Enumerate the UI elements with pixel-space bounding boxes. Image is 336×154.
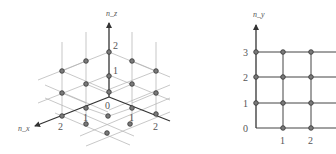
lattice-2d: n_y 3 2 1 0 1 2 <box>243 10 336 146</box>
nx-axis <box>35 97 109 126</box>
nz-axis-label: n_z <box>106 9 118 18</box>
y-tick-1: 1 <box>243 98 248 109</box>
lattice-figure: n_z n_x 2 1 0 1 2 1 2 <box>0 0 336 154</box>
lattice-3d: n_z n_x 2 1 0 1 2 1 2 <box>18 9 170 146</box>
x-tick-1-2d: 1 <box>280 135 285 146</box>
x-tick-1: 1 <box>83 112 88 123</box>
origin-label: 0 <box>105 100 110 111</box>
x-tick-2-2d: 2 <box>308 135 313 146</box>
y-tick-1: 1 <box>129 112 134 123</box>
x-tick-2: 2 <box>58 121 63 132</box>
y-tick-0: 0 <box>243 123 248 134</box>
y-tick-2: 2 <box>153 121 158 132</box>
z-tick-2: 2 <box>113 40 118 51</box>
y-tick-2: 2 <box>243 72 248 83</box>
ny-axis-label-2d: n_y <box>253 10 265 19</box>
y-tick-3: 3 <box>243 47 248 58</box>
ny-axis <box>109 97 170 121</box>
nx-axis-label: n_x <box>18 124 30 133</box>
z-tick-1: 1 <box>113 65 118 76</box>
